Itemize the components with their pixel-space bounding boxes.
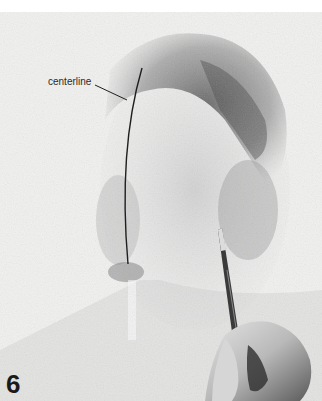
illustration: centerline 6 xyxy=(0,0,322,401)
centerline-label: centerline xyxy=(48,76,91,87)
drawing-paper: centerline 6 xyxy=(0,12,322,401)
step-number: 6 xyxy=(6,371,20,397)
pencil-sketch xyxy=(0,12,322,401)
